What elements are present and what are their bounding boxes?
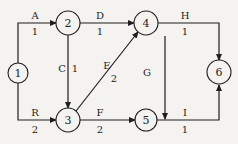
edge-H: [158, 23, 219, 60]
edge-I: [157, 85, 219, 120]
edge-H-duration: 1: [182, 26, 188, 37]
edge-G-name: G: [143, 67, 151, 78]
edge-I-name: I: [183, 107, 187, 118]
svg-text:3: 3: [65, 114, 72, 127]
svg-text:5: 5: [143, 114, 150, 127]
edge-A-name: A: [30, 10, 39, 21]
edge-A-duration: 1: [32, 26, 38, 37]
svg-text:4: 4: [143, 17, 150, 30]
edge-H-name: H: [181, 10, 190, 21]
edge-R-name: R: [31, 107, 39, 118]
edge-F-duration: 2: [97, 124, 103, 135]
node-6: 6: [207, 60, 231, 84]
network-diagram: 1 2 3 4 5 6 A 1 R 2 D 1 C 1 E 2 F 2 G H …: [0, 0, 238, 144]
edge-C-name: C: [58, 63, 66, 74]
svg-text:1: 1: [15, 67, 22, 80]
edge-E-duration: 2: [111, 73, 117, 84]
edge-I-duration: 1: [182, 124, 188, 135]
edge-C-duration: 1: [72, 63, 78, 74]
svg-text:6: 6: [216, 66, 223, 79]
edge-E-name: E: [103, 60, 110, 71]
edge-D-duration: 1: [97, 26, 103, 37]
node-3: 3: [56, 108, 80, 132]
edge-D-name: D: [96, 10, 104, 21]
edge-E: [76, 32, 138, 111]
node-1: 1: [8, 63, 28, 83]
svg-text:2: 2: [65, 17, 72, 30]
node-5: 5: [135, 109, 157, 131]
node-4: 4: [134, 11, 158, 35]
edge-F-name: F: [97, 107, 104, 118]
node-2: 2: [56, 11, 80, 35]
edge-R-duration: 2: [32, 124, 38, 135]
